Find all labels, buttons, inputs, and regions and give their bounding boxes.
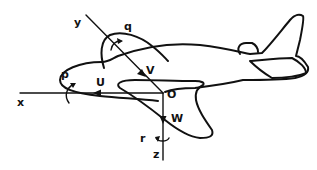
z-axis-label: z bbox=[153, 148, 159, 161]
q-label: q bbox=[124, 20, 132, 33]
u-label: U bbox=[96, 76, 105, 89]
v-label: V bbox=[146, 64, 155, 77]
v-arrowhead bbox=[137, 69, 146, 77]
w-label: W bbox=[171, 112, 183, 125]
origin-label: O bbox=[167, 88, 176, 101]
near-wing bbox=[118, 80, 212, 138]
horizontal-tail bbox=[250, 58, 306, 78]
p-label: p bbox=[61, 68, 69, 81]
q-rotation-arrowhead bbox=[117, 38, 123, 44]
r-label: r bbox=[140, 132, 146, 145]
aircraft-axes-diagram: y q V p U x O W r z bbox=[0, 0, 317, 170]
x-axis-label: x bbox=[17, 96, 24, 109]
y-axis-label: y bbox=[74, 16, 81, 29]
